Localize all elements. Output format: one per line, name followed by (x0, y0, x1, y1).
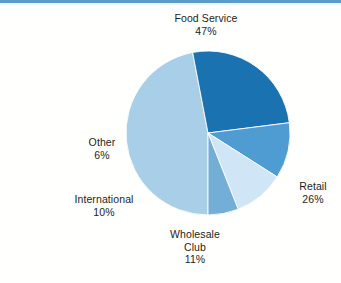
pie-label-international-percent: 10% (58, 206, 150, 219)
pie-label-food-service-name: Food Service (174, 12, 237, 24)
pie-label-wholesale-club-name-line1: Wholesale (170, 228, 220, 240)
pie-label-international-name: International (74, 193, 133, 205)
pie-label-food-service-percent: 47% (150, 25, 262, 38)
pie-label-food-service: Food Service 47% (150, 12, 262, 37)
pie-label-international: International 10% (58, 193, 150, 218)
pie-slice-retail[interactable] (193, 51, 290, 133)
pie-label-other-percent: 6% (76, 149, 128, 162)
pie-label-other: Other 6% (76, 136, 128, 161)
pie-slice-food-service[interactable] (126, 52, 208, 215)
pie-chart-figure: Food Service 47% Retail 26% Wholesale Cl… (0, 0, 341, 283)
pie-label-retail: Retail 26% (288, 180, 338, 205)
pie-label-wholesale-club-percent: 11% (152, 253, 238, 266)
pie-label-retail-name: Retail (299, 180, 326, 192)
pie-label-retail-percent: 26% (288, 193, 338, 206)
pie-label-wholesale-club-name-line2: Club (152, 241, 238, 254)
pie-label-other-name: Other (89, 136, 116, 148)
pie-label-wholesale-club: Wholesale Club 11% (152, 228, 238, 266)
